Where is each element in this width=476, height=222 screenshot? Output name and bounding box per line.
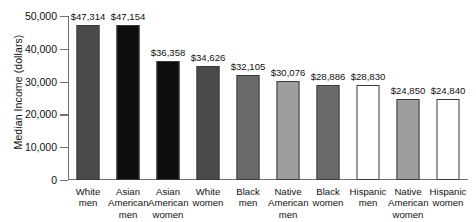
y-axis-tick-label: 20,000 — [25, 108, 57, 120]
category-label-line: men — [68, 197, 108, 208]
y-axis-tick-mark — [60, 180, 68, 181]
category-label-line: American — [388, 197, 428, 208]
y-axis-tick-mark — [60, 147, 68, 148]
bar-slot: $30,076 — [268, 10, 308, 180]
category-label-line: women — [428, 197, 468, 208]
bar-slot: $28,886 — [308, 10, 348, 180]
bar-value-label: $47,154 — [111, 11, 146, 22]
x-axis-category-label: NativeAmericanmen — [268, 186, 308, 220]
bar-value-label: $34,626 — [191, 52, 226, 63]
y-axis-tick-label: 10,000 — [25, 141, 57, 153]
bar — [397, 99, 420, 181]
x-axis-category-label: Hispanicmen — [348, 186, 388, 209]
bar — [77, 25, 100, 180]
x-axis-category-label: AsianAmericanwomen — [148, 186, 188, 220]
x-axis-category-label: AsianAmericanmen — [108, 186, 148, 220]
category-label-line: men — [348, 197, 388, 208]
category-label-line: men — [268, 209, 308, 220]
category-label-line: Black — [228, 186, 268, 197]
bar — [117, 25, 140, 180]
category-label-line: women — [148, 209, 188, 220]
bar-slot: $47,154 — [108, 10, 148, 180]
category-label-line: women — [188, 197, 228, 208]
y-axis-tick-mark — [60, 114, 68, 115]
y-axis-tick-mark — [60, 82, 68, 83]
bar-value-label: $28,886 — [311, 71, 346, 82]
bar — [277, 81, 300, 180]
bar-value-label: $28,830 — [351, 71, 386, 82]
x-axis-category-label: Blackwomen — [308, 186, 348, 209]
category-label-line: Black — [308, 186, 348, 197]
x-axis-category-label: Whitewomen — [188, 186, 228, 209]
category-label-line: Asian — [148, 186, 188, 197]
bar-value-label: $24,840 — [431, 85, 466, 96]
category-label-line: Hispanic — [348, 186, 388, 197]
bar-value-label: $36,358 — [151, 47, 186, 58]
bar-slot: $36,358 — [148, 10, 188, 180]
bar-value-label: $24,850 — [391, 85, 426, 96]
plot-area: 010,00020,00030,00040,00050,000 $47,314$… — [68, 10, 468, 182]
bar — [197, 66, 220, 180]
category-label-line: women — [308, 197, 348, 208]
bar-slot: $47,314 — [68, 10, 108, 180]
bar-slot: $28,830 — [348, 10, 388, 180]
y-axis-tick-mark — [60, 49, 68, 50]
x-axis-category-labels: WhitemenAsianAmericanmenAsianAmericanwom… — [68, 186, 468, 222]
bar — [437, 99, 460, 180]
y-axis-tick-label: 50,000 — [25, 10, 57, 22]
bar — [157, 61, 180, 180]
bar — [317, 85, 340, 180]
y-axis-tick-mark — [60, 16, 68, 17]
category-label-line: men — [108, 209, 148, 220]
x-axis-category-label: Whitemen — [68, 186, 108, 209]
bar-slot: $34,626 — [188, 10, 228, 180]
x-axis-category-label: Blackmen — [228, 186, 268, 209]
median-income-bar-chart: Median Income (dollars) 010,00020,00030,… — [0, 0, 476, 222]
bar-value-label: $32,105 — [231, 61, 266, 72]
x-axis-category-label: Hispanicwomen — [428, 186, 468, 209]
bar-value-label: $30,076 — [271, 67, 306, 78]
bar-value-label: $47,314 — [71, 11, 106, 22]
category-label-line: Asian — [108, 186, 148, 197]
category-label-line: Native — [268, 186, 308, 197]
y-axis-title: Median Income (dollars) — [12, 22, 24, 162]
category-label-line: men — [228, 197, 268, 208]
bar-slot: $32,105 — [228, 10, 268, 180]
y-axis-tick-label: 30,000 — [25, 76, 57, 88]
bar-series: $47,314$47,154$36,358$34,626$32,105$30,0… — [68, 10, 468, 180]
bar — [237, 75, 260, 180]
category-label-line: women — [388, 209, 428, 220]
category-label-line: Hispanic — [428, 186, 468, 197]
category-label-line: White — [68, 186, 108, 197]
category-label-line: Native — [388, 186, 428, 197]
bar-slot: $24,850 — [388, 10, 428, 180]
bar-slot: $24,840 — [428, 10, 468, 180]
category-label-line: American — [268, 197, 308, 208]
category-label-line: American — [148, 197, 188, 208]
category-label-line: White — [188, 186, 228, 197]
x-axis-category-label: NativeAmericanwomen — [388, 186, 428, 220]
y-axis-tick-label: 0 — [51, 174, 57, 186]
y-axis-tick-label: 40,000 — [25, 43, 57, 55]
category-label-line: American — [108, 197, 148, 208]
bar — [357, 85, 380, 180]
